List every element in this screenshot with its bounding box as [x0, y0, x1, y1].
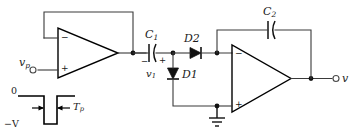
opamp1-noninverting-pin-label: +: [61, 64, 69, 73]
cap2-label: C2: [263, 6, 276, 18]
circuit-diagram: vp − + C1 − + v1 D2 D1 C2 − + v 0 −V Tp: [0, 0, 351, 137]
pulse-width-label: Tp: [73, 102, 84, 113]
opamp1-inverting-pin-label: −: [61, 33, 69, 42]
diode1-symbol: [167, 68, 179, 79]
opamp2-noninverting-pin-label: +: [235, 100, 243, 109]
circuit-schematic-canvas: [0, 0, 351, 137]
waveform-zero-label: 0: [11, 86, 17, 96]
v1-subscript: 1: [152, 72, 156, 80]
waveform-negative-v-label: −V: [4, 119, 19, 129]
pulse-width-symbol-text: T: [73, 101, 80, 112]
output-terminal-ring: [333, 76, 339, 82]
input-terminal-ring: [30, 67, 36, 73]
cap2-subscript: 2: [271, 10, 276, 19]
input-pulse-waveform: [18, 96, 75, 124]
v1-node-label: v1: [146, 69, 156, 80]
input-terminal-subscript: p: [25, 61, 30, 70]
cap1-subscript: 1: [153, 33, 158, 42]
cap1-left-polarity: −: [141, 57, 148, 66]
diode2-symbol: [190, 47, 201, 59]
output-terminal-label: v: [342, 73, 348, 84]
diode1-cathode-wire: [173, 79, 217, 106]
cap1-right-polarity: +: [159, 56, 166, 65]
cap2-symbol: [268, 21, 275, 39]
diode2-label: D2: [184, 33, 200, 44]
pulse-width-subscript: p: [80, 105, 84, 113]
cap2-right-wire: [275, 30, 311, 79]
cap1-symbol: [149, 44, 156, 62]
pulse-width-arrows: [32, 106, 70, 111]
diode1-label: D1: [182, 69, 198, 80]
input-terminal-label: vp: [19, 57, 30, 69]
opamp2-inverting-pin-label: −: [235, 49, 243, 58]
cap1-label: C1: [145, 29, 158, 41]
ground-symbol: [209, 106, 225, 126]
